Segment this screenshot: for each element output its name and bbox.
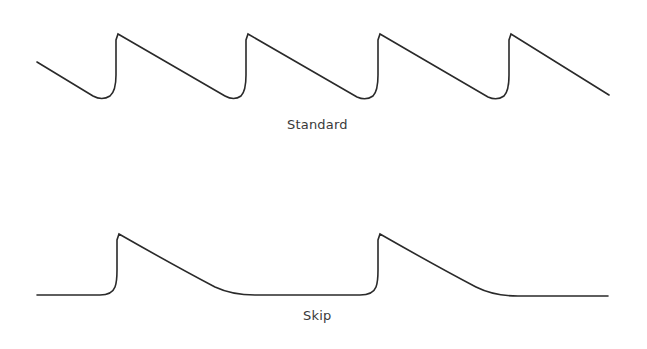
standard-label: Standard	[287, 117, 348, 132]
waveform-diagram	[0, 0, 647, 349]
standard-waveform	[37, 34, 609, 99]
skip-waveform	[37, 234, 608, 296]
skip-label: Skip	[303, 308, 331, 323]
